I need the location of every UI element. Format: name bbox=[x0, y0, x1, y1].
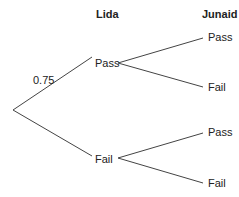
probability-lida-pass: 0.75 bbox=[33, 74, 54, 87]
node-lida-pass: Pass bbox=[95, 57, 119, 70]
node-junaid-fail-after-fail: Fail bbox=[208, 177, 226, 190]
header-lida: Lida bbox=[96, 8, 119, 21]
node-junaid-pass-after-fail: Pass bbox=[208, 126, 232, 139]
branch-root-to-lida-fail bbox=[13, 110, 92, 156]
header-junaid: Junaid bbox=[202, 8, 237, 21]
tree-diagram-lines bbox=[0, 0, 239, 197]
node-junaid-pass-after-pass: Pass bbox=[208, 31, 232, 44]
branch-lida-pass-to-junaid-pass bbox=[118, 38, 203, 63]
node-lida-fail: Fail bbox=[95, 153, 113, 166]
branch-lida-fail-to-junaid-fail bbox=[118, 158, 203, 183]
branch-lida-pass-to-junaid-fail bbox=[118, 63, 203, 87]
branch-lida-fail-to-junaid-pass bbox=[118, 133, 203, 158]
node-junaid-fail-after-pass: Fail bbox=[208, 81, 226, 94]
